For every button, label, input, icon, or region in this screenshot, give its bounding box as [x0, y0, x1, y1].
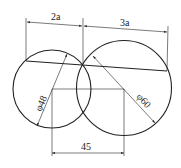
extension-line-right-top [167, 26, 168, 71]
dimension-line-2a [27, 22, 82, 26]
diagram-canvas: 2a 3a 45 φ48 φ60 [0, 0, 181, 168]
diameter-label-48: φ48 [33, 94, 49, 113]
dimension-label-45: 45 [81, 141, 91, 152]
dimension-label-2a: 2a [51, 11, 61, 22]
chord-line [26, 61, 167, 71]
dimension-label-3a: 3a [120, 17, 130, 28]
diameter-label-60: φ60 [135, 91, 154, 110]
